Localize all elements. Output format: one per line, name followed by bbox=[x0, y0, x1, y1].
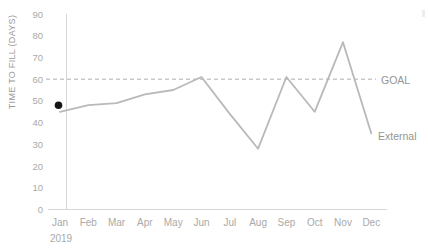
external-series-line bbox=[60, 42, 371, 149]
y-axis-title: TIME TO FILL (DAYS) bbox=[7, 14, 19, 110]
time-to-fill-line-chart: TIME TO FILL (DAYS) 9080706050403020100 … bbox=[0, 0, 428, 251]
x-tick-label-apr: Apr bbox=[131, 217, 159, 228]
y-tick-label-90: 90 bbox=[21, 9, 43, 20]
x-tick-label-may: May bbox=[159, 217, 187, 228]
x-tick-label-feb: Feb bbox=[74, 217, 102, 228]
x-tick-label-jan: Jan bbox=[46, 217, 74, 228]
y-tick-label-20: 20 bbox=[21, 161, 43, 172]
y-tick-label-50: 50 bbox=[21, 95, 43, 106]
x-tick-label-aug: Aug bbox=[244, 217, 272, 228]
x-tick-label-oct: Oct bbox=[301, 217, 329, 228]
x-tick-label-nov: Nov bbox=[329, 217, 357, 228]
line-chart-canvas bbox=[0, 0, 428, 251]
y-tick-label-70: 70 bbox=[21, 52, 43, 63]
edge-artifact-mark bbox=[422, 10, 425, 17]
x-tick-label-jun: Jun bbox=[188, 217, 216, 228]
y-tick-label-40: 40 bbox=[21, 117, 43, 128]
x-tick-label-sep: Sep bbox=[272, 217, 300, 228]
jan-data-point-dot bbox=[55, 101, 63, 109]
y-tick-label-10: 10 bbox=[21, 182, 43, 193]
goal-reference-label: GOAL bbox=[381, 74, 410, 86]
y-tick-label-30: 30 bbox=[21, 139, 43, 150]
y-tick-label-80: 80 bbox=[21, 30, 43, 41]
y-tick-label-0: 0 bbox=[21, 204, 43, 215]
x-axis-year-label: 2019 bbox=[45, 233, 77, 244]
x-tick-label-jul: Jul bbox=[216, 217, 244, 228]
series-label-external: External bbox=[378, 130, 417, 142]
x-tick-label-mar: Mar bbox=[103, 217, 131, 228]
x-tick-label-dec: Dec bbox=[357, 217, 385, 228]
y-tick-label-60: 60 bbox=[21, 74, 43, 85]
